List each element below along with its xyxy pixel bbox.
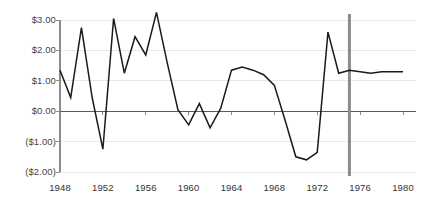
- x-axis-tick-label: 1972: [306, 183, 328, 193]
- line-chart: $3.00$2.00$1.00$0.00($1.00)($2.00) 19481…: [0, 0, 426, 203]
- x-axis-labels: 194819521956196019641968197219761980: [0, 0, 426, 203]
- x-axis-tick-label: 1956: [135, 183, 157, 193]
- x-axis-tick-label: 1968: [264, 183, 286, 193]
- x-axis-tick-label: 1948: [49, 183, 71, 193]
- x-axis-tick-label: 1980: [392, 183, 414, 193]
- x-axis-tick-label: 1976: [349, 183, 371, 193]
- x-axis-tick-label: 1964: [221, 183, 243, 193]
- x-axis-tick-label: 1960: [178, 183, 200, 193]
- x-axis-tick-label: 1952: [92, 183, 114, 193]
